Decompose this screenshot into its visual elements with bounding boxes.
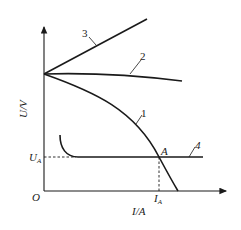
- curve-1-label: 1: [141, 107, 147, 119]
- curve-4-label: 4: [195, 139, 201, 151]
- curve-4: [60, 135, 203, 157]
- curve-3-label: 3: [82, 27, 88, 39]
- point-a-label: A: [160, 145, 168, 157]
- ua-label: UA: [29, 151, 42, 165]
- y-axis-label: U/V: [17, 99, 29, 118]
- curve-1: [44, 74, 178, 191]
- leader-3: [89, 37, 96, 45]
- curve-2-label: 2: [140, 50, 146, 62]
- uI-characteristic-diagram: 3 2 1 4 A UA IA O U/V I/A: [0, 0, 241, 230]
- x-axis-label: I/A: [131, 205, 146, 217]
- ia-label: IA: [153, 192, 163, 206]
- curve-3: [44, 19, 147, 74]
- leader-2: [130, 60, 141, 74]
- origin-label: O: [32, 191, 40, 203]
- curve-2: [44, 74, 182, 81]
